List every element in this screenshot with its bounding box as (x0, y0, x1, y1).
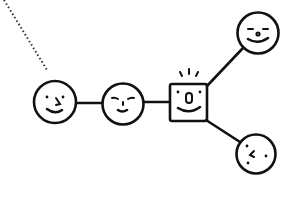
edge-hub-topright (207, 48, 243, 86)
dotted-edge (4, 0, 47, 70)
edge-hub-bottomright (206, 120, 240, 142)
face-left-node (34, 81, 76, 123)
face-middle-node (103, 84, 144, 125)
hub-square-node (170, 69, 207, 121)
network-diagram (0, 0, 296, 220)
face-top-right-node (238, 13, 279, 54)
face-bottom-right-node (237, 135, 276, 174)
